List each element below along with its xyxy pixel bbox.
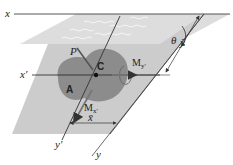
y-prime-axis-label: y′ [54,138,63,150]
y-axis-label: y [95,148,101,160]
x-prime-axis-label: x′ [19,68,28,80]
centroid-label: C [97,61,104,72]
theta-label: θ [171,34,177,46]
submerged-plate-diagram: x x′ y′ y P C A My′ Mx′ x̄ ȳ θ [0,0,233,165]
x-bar-label: x̄ [87,111,93,123]
x-axis-label: x [4,7,10,19]
force-p-label: P [69,45,77,57]
centroid-point [94,73,98,77]
area-label: A [66,84,73,95]
